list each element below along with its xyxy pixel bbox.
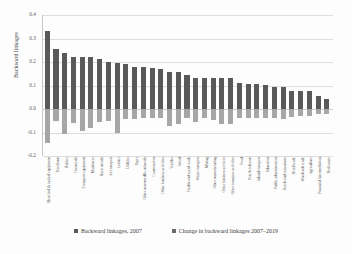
bar-group (261, 15, 270, 156)
bar-change-2007-2019 (158, 109, 163, 118)
x-axis-label-slot: Public administration (270, 157, 279, 219)
bar-group (235, 15, 244, 156)
legend-swatch-icon (74, 229, 78, 233)
x-axis-label-slot: Inland transport (253, 157, 262, 219)
bar-change-2007-2019 (62, 109, 67, 134)
x-axis-label-slot: Water transport (191, 157, 200, 219)
y-axis-tick-label: 0.0 (29, 106, 36, 111)
bar-group (296, 15, 305, 156)
bar-change-2007-2019 (307, 109, 312, 116)
x-axis-label-slot: Air transport (104, 157, 113, 219)
bar-group (165, 15, 174, 156)
bar-group (104, 15, 113, 156)
bar-backward-linkages-2007 (228, 78, 233, 109)
bar-group (209, 15, 218, 156)
x-axis-label-slot: Paper (130, 157, 139, 219)
x-axis-label-slot: Mining (200, 157, 209, 219)
bar-backward-linkages-2007 (281, 87, 286, 109)
bar-group (174, 15, 183, 156)
bar-group (183, 15, 192, 156)
bar-change-2007-2019 (167, 109, 172, 126)
bar-backward-linkages-2007 (298, 91, 303, 109)
bar-change-2007-2019 (211, 109, 216, 120)
x-axis-label-slot: Hotels and restaurants (279, 157, 288, 219)
bar-change-2007-2019 (316, 109, 321, 114)
bar-change-2007-2019 (202, 109, 207, 118)
bar-backward-linkages-2007 (219, 78, 224, 109)
bar-change-2007-2019 (324, 109, 329, 114)
bar-backward-linkages-2007 (254, 84, 259, 109)
x-axis-label-slot: Textiles (165, 157, 174, 219)
bar-group (95, 15, 104, 156)
bar-group (288, 15, 297, 156)
bar-group (113, 15, 122, 156)
x-axis-label-slot: Other transport activities (226, 157, 235, 219)
bar-change-2007-2019 (237, 109, 242, 118)
y-axis-tick-label: 0.2 (29, 59, 36, 64)
bar-group (130, 15, 139, 156)
bar-change-2007-2019 (115, 109, 120, 133)
bar-backward-linkages-2007 (123, 64, 128, 109)
bar-group (87, 15, 96, 156)
bar-backward-linkages-2007 (158, 69, 163, 109)
bar-change-2007-2019 (123, 109, 128, 119)
y-axis-tick-label: 0.1 (29, 83, 36, 88)
x-axis-label-slot: Education (261, 157, 270, 219)
bar-change-2007-2019 (45, 109, 50, 143)
legend-swatch-icon (172, 229, 176, 233)
x-axis-label-slot: Agriculture (305, 157, 314, 219)
bar-group (323, 15, 332, 156)
bar-change-2007-2019 (228, 109, 233, 124)
x-axis-label-slot: Construction (148, 157, 157, 219)
x-axis-label-slot: Health and social work (183, 157, 192, 219)
bar-backward-linkages-2007 (53, 49, 58, 109)
bar-group (226, 15, 235, 156)
x-axis-label-slot: Electrical & optical equipment (43, 157, 52, 219)
bar-change-2007-2019 (150, 109, 155, 118)
x-axis-label-slot: Petroleum (52, 157, 61, 219)
bar-backward-linkages-2007 (184, 75, 189, 109)
bar-backward-linkages-2007 (62, 53, 67, 109)
x-axis-label-slot: Wood (174, 157, 183, 219)
bar-change-2007-2019 (53, 109, 58, 121)
x-axis-label-slot: Transport equipment (78, 157, 87, 219)
bar-backward-linkages-2007 (132, 67, 137, 109)
bar-backward-linkages-2007 (88, 57, 93, 109)
bar-change-2007-2019 (141, 109, 146, 118)
bar-group (139, 15, 148, 156)
bar-backward-linkages-2007 (263, 85, 268, 109)
y-axis-ticks: 0.40.30.20.10.0-0.1-0.2 (0, 15, 40, 156)
bar-backward-linkages-2007 (141, 67, 146, 109)
x-axis-labels: Electrical & optical equipmentPetroleumR… (43, 157, 331, 219)
bar-series-group (43, 15, 331, 156)
bar-backward-linkages-2007 (246, 84, 251, 109)
bar-group (279, 15, 288, 156)
bar-change-2007-2019 (132, 109, 137, 119)
x-axis-tick-label: Real estate (327, 157, 331, 173)
bar-change-2007-2019 (298, 109, 303, 116)
bar-group (69, 15, 78, 156)
bar-change-2007-2019 (219, 109, 224, 124)
bar-change-2007-2019 (289, 109, 294, 117)
x-axis-label-slot: Real estate (323, 157, 332, 219)
bar-change-2007-2019 (263, 109, 268, 118)
legend-item-change-2007-2019: Change in backward linkages 2007–2019 (172, 228, 278, 234)
bar-backward-linkages-2007 (97, 59, 102, 109)
x-axis-label-slot: Retail trade (288, 157, 297, 219)
bar-change-2007-2019 (272, 109, 277, 118)
x-axis-label-slot: Machinery (87, 157, 96, 219)
bar-group (244, 15, 253, 156)
chart-legend: Backward linkages, 2007 Change in backwa… (0, 228, 352, 234)
bar-group (200, 15, 209, 156)
bar-group (122, 15, 131, 156)
bar-backward-linkages-2007 (71, 57, 76, 109)
x-axis-label-slot: Utilities (122, 157, 131, 219)
x-axis-label-slot: Basic metals (95, 157, 104, 219)
bar-group (60, 15, 69, 156)
bar-change-2007-2019 (281, 109, 286, 119)
bar-change-2007-2019 (88, 109, 93, 128)
bar-group (314, 15, 323, 156)
bar-change-2007-2019 (80, 109, 85, 131)
bar-backward-linkages-2007 (272, 87, 277, 109)
x-axis-label-slot: Food (235, 157, 244, 219)
